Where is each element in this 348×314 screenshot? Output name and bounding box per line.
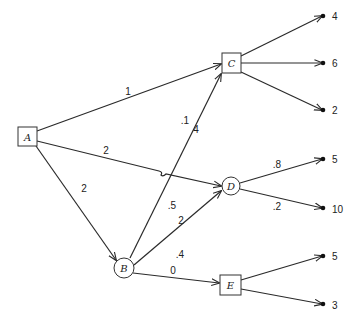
terminal-value: 10 [332, 204, 344, 215]
edge-label-a-c: 1 [125, 86, 131, 97]
edge-c-to-terminal-2 [241, 72, 322, 110]
edge-e-to-terminal-3 [241, 289, 322, 304]
edge-label-a-b: 2 [81, 183, 87, 194]
node-d: D [222, 177, 240, 195]
edge-b-to-e [133, 273, 219, 283]
terminal-value: 5 [332, 154, 338, 165]
edge-label-b-e-prob: .4 [176, 249, 185, 260]
terminal-dot [321, 254, 326, 259]
terminal-dot [321, 61, 326, 66]
node-e: E [220, 275, 241, 295]
terminal-dot [321, 108, 326, 113]
terminal-value: 5 [332, 251, 338, 262]
edge-label-a-d: 2 [103, 145, 109, 156]
terminal-value: 4 [332, 11, 338, 22]
edge-label-b-e-cost: 0 [170, 265, 176, 276]
node-a: A [18, 127, 37, 146]
edge-label-d-5: .8 [273, 159, 282, 170]
edge-a-to-d [37, 141, 221, 186]
edge-label-b-d-cost: 2 [178, 215, 184, 226]
node-c-label: C [228, 58, 236, 69]
edge-label-b-c-prob: .1 [181, 115, 190, 126]
edge-a-to-c [37, 64, 221, 131]
terminal-dot [321, 302, 326, 307]
terminal-value: 6 [332, 58, 338, 69]
edge-label-d-10: .2 [273, 201, 282, 212]
decision-tree-diagram: 4 6 2 5 10 5 3 1 2 2 .1 4 .5 2 .4 0 .8 .… [0, 0, 348, 314]
node-d-label: D [226, 181, 235, 192]
node-a-label: A [23, 132, 31, 143]
terminal-value: 3 [332, 300, 338, 311]
terminal-dot [321, 206, 326, 211]
edge-a-to-b [36, 146, 116, 260]
edge-label-b-c-cost: 4 [193, 124, 199, 135]
node-b-label: B [119, 263, 127, 274]
terminal-dot [321, 157, 326, 162]
node-c: C [222, 53, 241, 73]
node-e-label: E [226, 280, 235, 291]
terminal-value: 2 [332, 105, 338, 116]
edge-label-b-d-prob: .5 [168, 200, 177, 211]
edge-e-to-terminal-5 [241, 256, 322, 280]
edge-c-to-terminal-4 [241, 16, 322, 56]
terminal-dot [321, 14, 326, 19]
node-b: B [114, 258, 134, 278]
